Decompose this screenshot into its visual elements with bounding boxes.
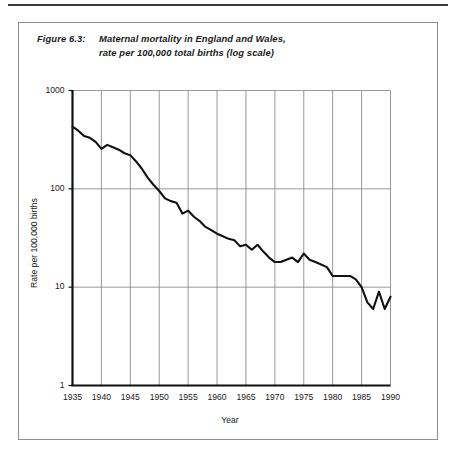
x-tick-label: 1980: [317, 392, 349, 402]
x-axis-title: Year: [155, 415, 305, 425]
y-axis-title: Rate per 100,000 births: [29, 183, 39, 303]
x-tick-label: 1985: [346, 392, 378, 402]
chart-area: 1000100101 19351940194519501955196019651…: [0, 0, 456, 467]
axis-lines: [72, 90, 391, 386]
x-tick-label: 1990: [375, 392, 407, 402]
mortality-line-series: [73, 127, 391, 309]
x-tick-label: 1975: [288, 392, 320, 402]
x-tick-label: 1940: [85, 392, 117, 402]
x-tick-label: 1960: [201, 392, 233, 402]
y-tick-label: 1: [31, 380, 65, 390]
x-tick-label: 1965: [230, 392, 262, 402]
x-tick-label: 1970: [259, 392, 291, 402]
x-tick-label: 1945: [114, 392, 146, 402]
x-tick-label: 1955: [172, 392, 204, 402]
x-tick-label: 1950: [143, 392, 175, 402]
x-tick-label: 1935: [57, 392, 89, 402]
y-tick-label: 1000: [31, 85, 65, 95]
gridlines: [73, 91, 391, 386]
